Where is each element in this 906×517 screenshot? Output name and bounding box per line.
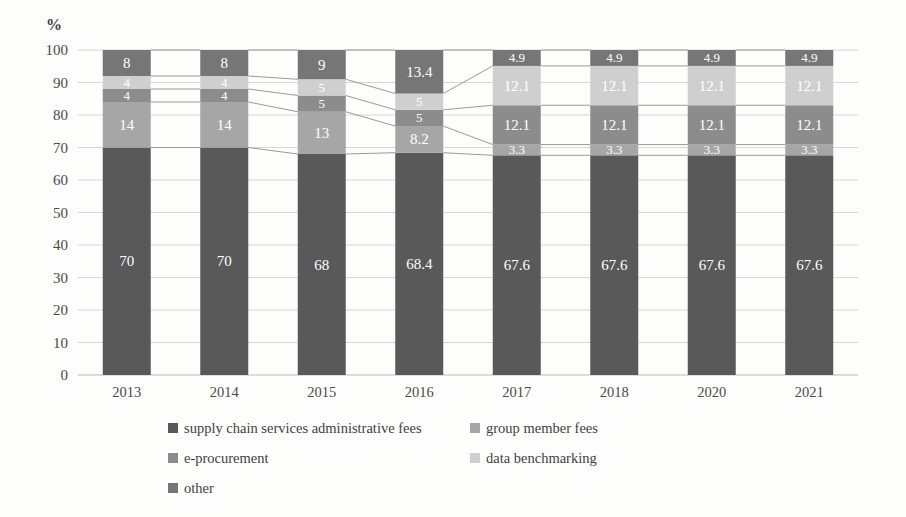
segment-value-label: 70 [119,253,134,269]
x-axis-tick-label: 2018 [600,384,629,400]
legend-label: group member fees [486,420,598,436]
segment-value-label: 8 [123,55,131,71]
segment-value-label: 5 [319,96,326,111]
segment-value-label: 3.3 [606,142,622,157]
gridlines-group [78,50,858,375]
y-axis-tick-label: 0 [61,367,69,383]
segment-value-label: 13 [314,125,329,141]
segment-value-label: 4.9 [606,50,622,65]
legend-item[interactable]: group member fees [470,420,598,436]
legend-label: data benchmarking [486,450,597,466]
legend-item[interactable]: supply chain services administrative fee… [168,420,422,436]
x-axis-labels-group: 20132014201520162017201820202021 [112,384,824,400]
y-axis-tick-label: 90 [53,75,68,91]
segment-value-label: 4 [124,75,131,90]
segment-value-label: 9 [318,57,326,73]
axis-unit-group: % [46,16,62,33]
segment-connector-line [248,89,298,96]
legend-swatch-icon [470,423,480,433]
x-axis-tick-label: 2015 [307,384,336,400]
segment-connector-line [443,153,493,156]
segment-value-label: 4 [221,88,228,103]
segment-value-label: 4.9 [801,50,817,65]
segment-connector-line [346,153,396,154]
legend-label: supply chain services administrative fee… [184,420,422,436]
x-axis-tick-label: 2016 [405,384,434,400]
y-axis-tick-label: 80 [53,107,68,123]
segment-value-label: 3.3 [704,142,720,157]
segment-value-label: 8 [221,55,229,71]
segment-connector-line [248,76,298,79]
x-axis-tick-label: 2013 [112,384,141,400]
chart-canvas: 70144487014448681355968.48.25513.467.63.… [0,0,906,517]
segment-connector-line [443,105,493,110]
legend-group: supply chain services administrative fee… [168,420,598,496]
y-axis-tick-label: 30 [53,270,68,286]
segment-value-label: 4.9 [704,50,720,65]
segment-value-label: 5 [319,80,326,95]
segment-connector-line [443,66,493,94]
segment-value-label: 14 [217,117,233,133]
legend-item[interactable]: e-procurement [168,450,269,466]
legend-swatch-icon [168,423,178,433]
y-axis-tick-label: 40 [53,237,68,253]
y-axis-tick-label: 50 [53,205,68,221]
y-axis-tick-label: 10 [53,335,68,351]
y-axis-unit-label: % [46,16,62,33]
segment-connector-line [443,126,493,145]
segment-value-label: 68.4 [406,256,433,272]
segment-value-label: 14 [119,117,135,133]
segment-connector-line [248,148,298,155]
y-axis-labels-group: 0102030405060708090100 [46,42,69,383]
segment-value-label: 3.3 [801,142,817,157]
segment-value-label: 12.1 [699,78,725,94]
legend-swatch-icon [470,453,480,463]
y-axis-tick-label: 70 [53,140,68,156]
segment-value-label: 12.1 [504,78,530,94]
y-axis-tick-label: 20 [53,302,68,318]
segment-value-label: 12.1 [796,78,822,94]
legend-label: e-procurement [184,450,269,466]
segment-value-label: 12.1 [601,117,627,133]
segment-value-label: 67.6 [699,257,726,273]
segment-value-label: 12.1 [699,117,725,133]
legend-item[interactable]: data benchmarking [470,450,597,466]
segment-value-label: 68 [314,257,329,273]
segment-value-label: 67.6 [796,257,823,273]
segment-value-label: 5 [416,110,423,125]
segment-value-label: 4.9 [509,50,525,65]
x-axis-tick-label: 2021 [795,384,824,400]
segment-value-label: 12.1 [504,117,530,133]
segment-value-label: 67.6 [601,257,628,273]
legend-label: other [184,480,214,496]
segment-value-label: 4 [221,75,228,90]
legend-swatch-icon [168,453,178,463]
segment-value-label: 13.4 [406,64,433,80]
segment-value-label: 8.2 [410,131,429,147]
segment-connector-line [346,96,396,110]
segment-value-label: 12.1 [601,78,627,94]
y-axis-tick-label: 60 [53,172,68,188]
segment-value-label: 70 [217,253,232,269]
x-axis-tick-label: 2017 [502,384,531,400]
legend-item[interactable]: other [168,480,214,496]
segment-value-label: 12.1 [796,117,822,133]
stacked-bar-chart: 70144487014448681355968.48.25513.467.63.… [0,0,906,517]
segment-value-label: 3.3 [509,142,525,157]
segment-value-label: 67.6 [504,257,531,273]
y-axis-tick-label: 100 [46,42,69,58]
legend-swatch-icon [168,483,178,493]
segment-connector-line [248,102,298,112]
segment-value-label: 4 [124,88,131,103]
x-axis-tick-label: 2014 [210,384,240,400]
segment-value-label: 5 [416,94,423,109]
segment-connector-line [346,112,396,126]
x-axis-tick-label: 2020 [697,384,726,400]
segment-connector-line [346,79,396,93]
